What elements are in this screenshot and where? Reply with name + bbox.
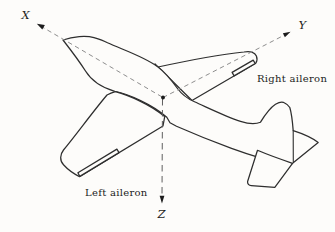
left-aileron-label: Left aileron (85, 187, 148, 198)
right-aileron-label: Right aileron (257, 73, 327, 84)
y-axis-arrowhead (283, 32, 291, 37)
z-axis-arrowhead (160, 196, 165, 204)
z-axis-line (162, 99, 163, 197)
x-axis-label: X (21, 8, 31, 22)
origin-dot (161, 96, 165, 100)
y-axis-label: Y (299, 18, 308, 32)
z-axis-label: Z (157, 207, 167, 221)
x-axis-arrowhead (37, 24, 45, 30)
aircraft-axes-diagram: X Y Z Right aileron Left aileron (0, 0, 335, 232)
figure-canvas: X Y Z Right aileron Left aileron (0, 0, 335, 232)
